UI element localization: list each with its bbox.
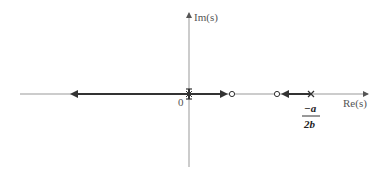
origin-label: 0 xyxy=(178,96,184,108)
pole-label-numerator: −a xyxy=(304,102,317,114)
imag-axis-label: Im(s) xyxy=(194,11,218,24)
root-locus-diagram: Im(s) Re(s) 0 −a 2b xyxy=(0,0,387,175)
arrow-right-icon xyxy=(220,90,228,98)
real-axis-label: Re(s) xyxy=(343,97,367,110)
arrow-left-icon xyxy=(70,90,78,98)
zero-marker-2 xyxy=(274,91,279,96)
arrow-left-icon xyxy=(281,90,289,98)
pole-label-denominator: 2b xyxy=(303,118,316,130)
zero-marker-1 xyxy=(229,91,234,96)
